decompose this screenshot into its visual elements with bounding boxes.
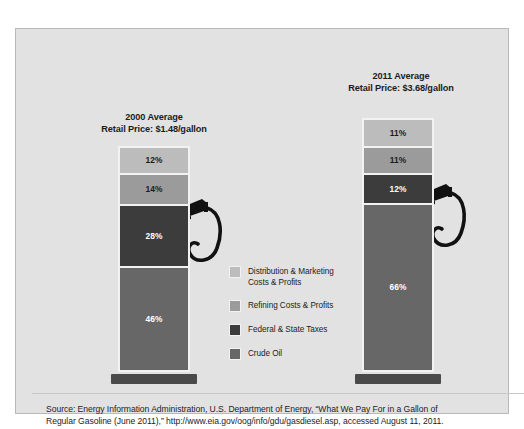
legend-swatch-crude bbox=[229, 348, 241, 360]
segment-2000-distribution[interactable]: 12% bbox=[120, 148, 188, 175]
segment-2000-crude[interactable]: 46% bbox=[120, 268, 188, 370]
chart-title-2011: 2011 Average Retail Price: $3.68/gallon bbox=[331, 71, 471, 95]
pump-base-2000 bbox=[111, 374, 197, 384]
legend-label-refining: Refining Costs & Profits bbox=[248, 300, 333, 311]
segment-2011-taxes[interactable]: 12% bbox=[364, 175, 432, 205]
legend-label-distribution: Distribution & Marketing Costs & Profits bbox=[248, 266, 334, 288]
segment-2000-taxes[interactable]: 28% bbox=[120, 206, 188, 268]
segment-2000-refining[interactable]: 14% bbox=[120, 175, 188, 206]
stacked-bar-2011: 11% 11% 12% 66% bbox=[362, 118, 434, 372]
legend-item-refining[interactable]: Refining Costs & Profits bbox=[229, 300, 359, 312]
chart-legend: Distribution & Marketing Costs & Profits… bbox=[229, 266, 359, 372]
segment-value-2011-distribution: 11% bbox=[390, 129, 406, 137]
source-line1: Source: Energy Information Administratio… bbox=[46, 403, 516, 415]
legend-item-taxes[interactable]: Federal & State Taxes bbox=[229, 324, 359, 336]
segment-2011-distribution[interactable]: 11% bbox=[364, 120, 432, 148]
segment-value-2000-refining: 14% bbox=[146, 185, 163, 193]
chart-title-2000: 2000 Average Retail Price: $1.48/gallon bbox=[89, 112, 219, 136]
figure-canvas: 2000 Average Retail Price: $1.48/gallon … bbox=[0, 0, 524, 429]
pump-base-2011 bbox=[355, 374, 441, 384]
segment-value-2011-crude: 66% bbox=[390, 283, 407, 291]
chart-panel: 2000 Average Retail Price: $1.48/gallon … bbox=[15, 28, 509, 414]
segment-2011-refining[interactable]: 11% bbox=[364, 148, 432, 176]
source-divider bbox=[32, 393, 524, 394]
source-line2: Regular Gasoline (June 2011),” http://ww… bbox=[46, 415, 516, 427]
legend-label-distribution-line1: Distribution & Marketing bbox=[248, 267, 334, 276]
legend-label-crude: Crude Oil bbox=[248, 348, 282, 359]
title-2000-line1: 2000 Average bbox=[89, 112, 219, 124]
legend-label-taxes: Federal & State Taxes bbox=[248, 324, 327, 335]
legend-label-distribution-line2: Costs & Profits bbox=[248, 278, 301, 287]
segment-value-2000-taxes: 28% bbox=[146, 232, 163, 240]
stacked-bar-2000: 12% 14% 28% 46% bbox=[118, 146, 190, 372]
legend-item-distribution[interactable]: Distribution & Marketing Costs & Profits bbox=[229, 266, 359, 288]
segment-value-2011-taxes: 12% bbox=[390, 185, 407, 193]
title-2000-line2: Retail Price: $1.48/gallon bbox=[89, 124, 219, 136]
segment-value-2000-distribution: 12% bbox=[146, 156, 163, 164]
legend-item-crude[interactable]: Crude Oil bbox=[229, 348, 359, 360]
legend-swatch-taxes bbox=[229, 324, 241, 336]
title-2011-line1: 2011 Average bbox=[331, 71, 471, 83]
legend-swatch-refining bbox=[229, 300, 241, 312]
source-note: Source: Energy Information Administratio… bbox=[46, 403, 516, 427]
segment-value-2000-crude: 46% bbox=[146, 315, 163, 323]
segment-2011-crude[interactable]: 66% bbox=[364, 205, 432, 370]
segment-value-2011-refining: 11% bbox=[390, 156, 406, 164]
title-2011-line2: Retail Price: $3.68/gallon bbox=[331, 83, 471, 95]
legend-swatch-distribution bbox=[229, 266, 241, 278]
